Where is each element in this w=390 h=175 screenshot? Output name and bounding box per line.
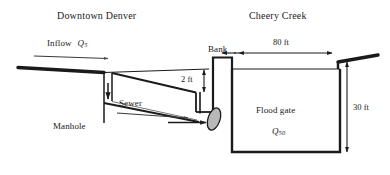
inflow-text: Inflow	[47, 38, 72, 48]
dimension-label-2ft: 2 ft	[181, 75, 193, 84]
label-cheery-creek: Cheery Creek	[249, 11, 307, 21]
outflow-symbol: Q	[272, 126, 279, 136]
label-bank: Bank	[208, 45, 227, 54]
diagram-svg	[0, 0, 390, 175]
label-downtown-denver: Downtown Denver	[57, 11, 136, 21]
bank-block	[213, 58, 232, 113]
dimension-label-80ft: 80 ft	[273, 38, 289, 47]
outflow-subscript: 50	[279, 129, 286, 136]
left-ground-surface	[18, 68, 209, 73]
inflow-subscript: 5	[84, 41, 87, 48]
inflow-arrow	[34, 56, 108, 59]
flood-gate-flap	[205, 106, 224, 132]
dimension-label-30ft: 30 ft	[353, 103, 369, 112]
right-ground-surface	[338, 55, 378, 69]
label-sewer: Sewer	[119, 99, 142, 108]
label-outflow-q50: Q50	[272, 127, 285, 137]
label-inflow: InflowQ5	[47, 39, 88, 49]
sewer-outlet-riser	[196, 92, 213, 114]
label-manhole: Manhole	[53, 122, 86, 131]
figure-canvas: Downtown Denver Cheery Creek InflowQ5 Ma…	[0, 0, 390, 175]
label-flood-gate: Flood gate	[256, 106, 295, 115]
